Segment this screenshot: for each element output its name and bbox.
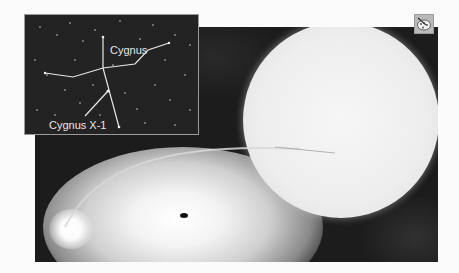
palette-button[interactable] [414,14,434,34]
cygnus-constellation-inset: Cygnus Cygnus X-1 [24,14,199,135]
cygnus-x1-label: Cygnus X-1 [49,120,106,131]
palette-icon [416,16,432,32]
constellation-label: Cygnus [110,45,147,56]
constellation-lines [25,15,199,135]
